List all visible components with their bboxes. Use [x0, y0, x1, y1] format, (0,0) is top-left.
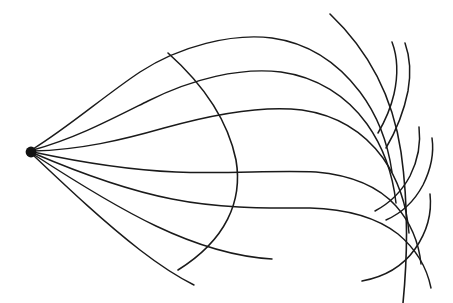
figure-root	[0, 0, 453, 303]
caustic-diagram-canvas	[0, 0, 453, 303]
point-source-dot	[26, 147, 37, 158]
diagram-background	[0, 0, 453, 303]
